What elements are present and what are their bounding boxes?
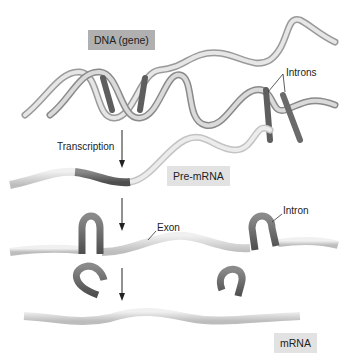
splicing-arrow bbox=[119, 198, 125, 231]
excised-introns bbox=[76, 266, 242, 296]
transcription-arrow bbox=[119, 130, 125, 168]
dna-label: DNA (gene) bbox=[88, 30, 155, 50]
pre-mrna-label: Pre-mRNA bbox=[167, 166, 230, 186]
transcription-label: Transcription bbox=[57, 141, 114, 153]
intron-label: Intron bbox=[283, 205, 309, 217]
exon-label: Exon bbox=[157, 222, 180, 234]
mrna-label: mRNA bbox=[274, 333, 317, 353]
maturation-arrow bbox=[119, 268, 125, 301]
introns-pointer bbox=[268, 74, 285, 92]
spliced-strand bbox=[10, 214, 338, 254]
dna-helix bbox=[25, 19, 335, 182]
introns-label: Introns bbox=[286, 67, 317, 79]
pre-mrna-strand bbox=[10, 172, 130, 185]
mrna-strand bbox=[24, 312, 300, 321]
